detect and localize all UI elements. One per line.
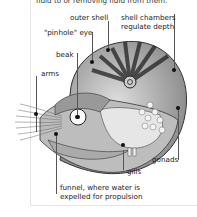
leader-outer-shell (108, 21, 109, 49)
label-funnel-line2: expelled for propulsion (60, 192, 143, 201)
marker-outer-shell (106, 48, 110, 52)
label-outer-shell: outer shell (70, 13, 108, 22)
label-gonads: gonads (152, 155, 178, 164)
label-regulate-depth: regulate depth (121, 22, 174, 31)
label-shell-chambers: shell chambers (121, 13, 176, 22)
label-funnel-line1: funnel, where water is (60, 183, 140, 192)
leader-funnel (56, 134, 57, 194)
leader-gills (123, 150, 124, 170)
label-gills: gills (127, 167, 141, 176)
marker-gills (121, 143, 125, 147)
marker-beak (75, 115, 79, 119)
marker-shell-chambers (172, 68, 176, 72)
leader-arms (36, 76, 37, 132)
label-pinhole-eye: "pinhole" eye (44, 28, 92, 37)
marker-gonads (176, 106, 180, 110)
leader-gonads (178, 108, 179, 160)
label-beak: beak (56, 50, 74, 59)
leader-beak (77, 53, 78, 115)
marker-pinhole-eye (90, 60, 94, 64)
label-arms: arms (41, 69, 59, 78)
marker-funnel (54, 132, 58, 136)
marker-arms (34, 112, 38, 116)
